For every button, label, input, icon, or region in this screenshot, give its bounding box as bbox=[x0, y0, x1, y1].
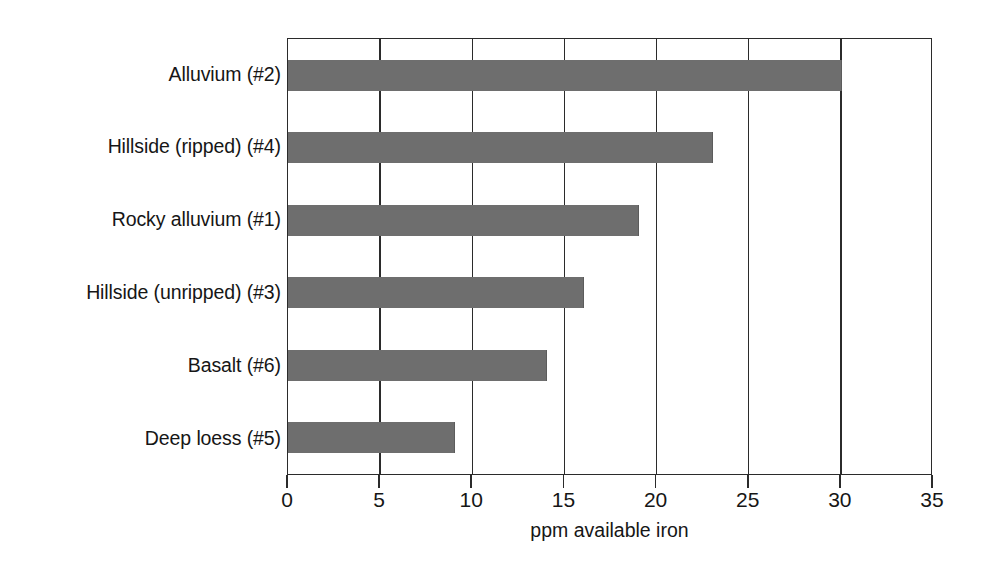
x-tick-mark bbox=[931, 475, 933, 488]
bar bbox=[288, 277, 584, 308]
x-tick-mark bbox=[747, 475, 749, 488]
x-axis-tick-labels: 05101520253035 bbox=[287, 489, 932, 517]
x-axis-title: ppm available iron bbox=[287, 521, 932, 541]
x-tick-label: 10 bbox=[460, 489, 483, 510]
category-label-row: Deep loess (#5) bbox=[0, 402, 281, 475]
category-label-row: Hillside (unripped) (#3) bbox=[0, 256, 281, 329]
bar-row bbox=[288, 39, 931, 112]
bar-row bbox=[288, 329, 931, 402]
bar-row bbox=[288, 257, 931, 330]
bar-chart: Alluvium (#2) Hillside (ripped) (#4) Roc… bbox=[0, 0, 995, 575]
x-tick-label: 0 bbox=[281, 489, 293, 510]
x-tick-mark bbox=[470, 475, 472, 488]
category-label-row: Hillside (ripped) (#4) bbox=[0, 111, 281, 184]
x-tick-label: 15 bbox=[552, 489, 575, 510]
x-tick-mark bbox=[378, 475, 380, 488]
category-label: Hillside (ripped) (#4) bbox=[108, 137, 281, 157]
bar bbox=[288, 205, 639, 236]
x-tick-mark bbox=[563, 475, 565, 488]
x-tick-label: 35 bbox=[920, 489, 943, 510]
bar bbox=[288, 350, 547, 381]
bar-row bbox=[288, 184, 931, 257]
category-axis-labels: Alluvium (#2) Hillside (ripped) (#4) Roc… bbox=[0, 38, 281, 475]
category-label-row: Rocky alluvium (#1) bbox=[0, 184, 281, 257]
plot-area bbox=[287, 38, 932, 475]
x-tick-label: 25 bbox=[736, 489, 759, 510]
x-tick-mark bbox=[286, 475, 288, 488]
category-label-row: Basalt (#6) bbox=[0, 329, 281, 402]
x-axis-tick-marks bbox=[287, 475, 932, 488]
x-tick-label: 20 bbox=[644, 489, 667, 510]
bar bbox=[288, 60, 842, 91]
bar-row bbox=[288, 402, 931, 475]
x-tick-mark bbox=[655, 475, 657, 488]
bar-row bbox=[288, 112, 931, 185]
category-label: Rocky alluvium (#1) bbox=[112, 210, 281, 230]
category-label-row: Alluvium (#2) bbox=[0, 38, 281, 111]
category-label: Deep loess (#5) bbox=[145, 429, 281, 449]
category-label: Hillside (unripped) (#3) bbox=[86, 283, 281, 303]
x-tick-mark bbox=[839, 475, 841, 488]
category-label: Basalt (#6) bbox=[188, 356, 281, 376]
x-tick-label: 5 bbox=[373, 489, 385, 510]
category-label: Alluvium (#2) bbox=[169, 65, 281, 85]
bars-layer bbox=[288, 39, 931, 474]
bar bbox=[288, 132, 713, 163]
x-tick-label: 30 bbox=[828, 489, 851, 510]
bar bbox=[288, 422, 455, 453]
